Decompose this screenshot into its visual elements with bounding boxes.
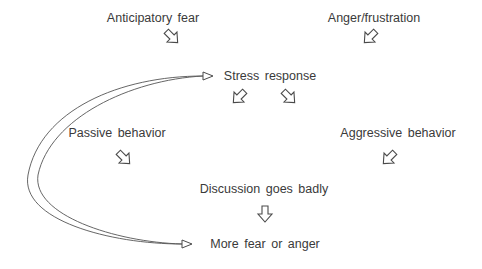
arrow-down-left-icon — [359, 26, 380, 47]
arrow-down-icon — [258, 206, 272, 222]
node-anger-frustration: Anger/frustration — [328, 11, 420, 25]
arrow-down-left-icon — [378, 147, 399, 168]
node-anticipatory-fear: Anticipatory fear — [107, 11, 199, 25]
arrow-down-right-icon — [113, 147, 134, 168]
arrow-down-left-icon — [228, 86, 249, 107]
arrow-down-right-icon — [161, 26, 182, 47]
arrow-down-right-icon — [278, 86, 299, 107]
node-discussion-goes-badly: Discussion goes badly — [200, 182, 328, 196]
arrowhead-right-icon — [182, 240, 192, 248]
node-passive-behavior: Passive behavior — [68, 126, 165, 140]
node-stress-response: Stress response — [224, 69, 316, 83]
node-aggressive-behavior: Aggressive behavior — [340, 126, 455, 140]
arrowhead-right-icon — [203, 72, 213, 80]
node-more-fear-or-anger: More fear or anger — [210, 237, 320, 251]
feedback-loop-curves — [28, 76, 203, 244]
